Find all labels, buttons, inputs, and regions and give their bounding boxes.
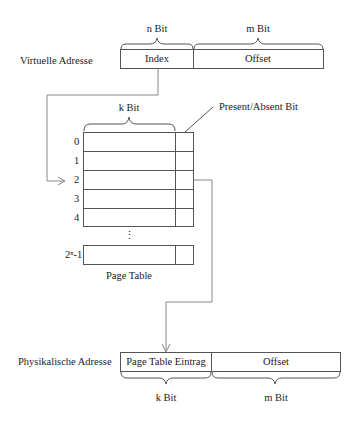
row-index-1: 1 (74, 156, 79, 167)
offset-field-physical: Offset (263, 357, 289, 368)
row-to-physical-arrow (162, 180, 212, 352)
physical-address-label: Physikalische Adresse (18, 357, 112, 368)
table-ellipsis: ⋮ (124, 231, 135, 242)
row-index-3: 3 (74, 194, 79, 205)
page-table-grid (84, 133, 194, 265)
brace-n-bit (121, 38, 193, 49)
n-bit-label: n Bit (147, 24, 168, 35)
brace-k-bit-physical (121, 372, 211, 384)
offset-field-virtual: Offset (245, 54, 271, 65)
m-bit-physical-label: m Bit (264, 393, 288, 404)
k-bit-physical-label: k Bit (156, 393, 177, 404)
row-index-2: 2 (74, 175, 79, 186)
row-index-0: 0 (74, 137, 79, 148)
brace-m-bit (194, 38, 323, 49)
m-bit-label: m Bit (246, 24, 270, 35)
index-field: Index (145, 54, 169, 65)
present-absent-label: Present/Absent Bit (219, 102, 298, 113)
brace-k-bit-table (84, 117, 175, 131)
present-absent-leader (185, 107, 213, 132)
row-index-4: 4 (74, 213, 79, 224)
k-bit-table-label: k Bit (119, 103, 140, 114)
row-index-last: 2ⁿ-1 (65, 250, 82, 261)
virtual-address-label: Virtuelle Adresse (20, 56, 93, 67)
page-table-title: Page Table (106, 271, 152, 282)
page-table-entry-field: Page Table Eintrag (126, 357, 206, 368)
brace-m-bit-physical (212, 372, 340, 384)
index-to-row-arrow (47, 69, 158, 185)
